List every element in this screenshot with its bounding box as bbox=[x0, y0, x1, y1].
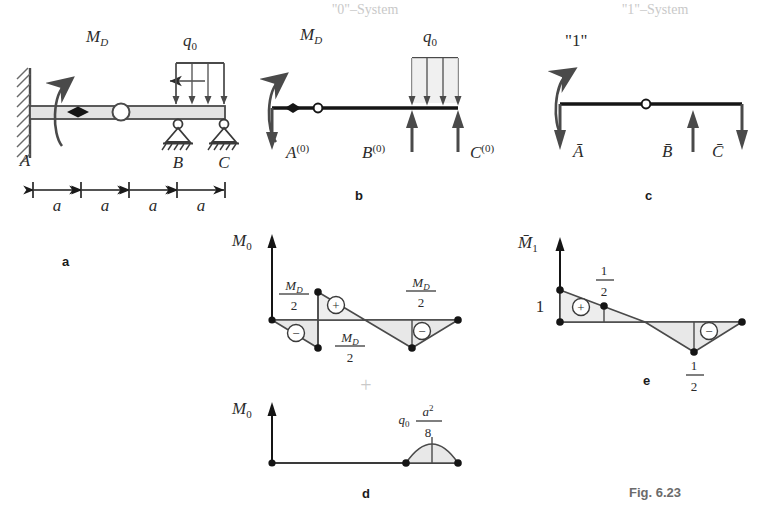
svg-text:a2: a2 bbox=[423, 403, 434, 419]
distributed-load-a bbox=[170, 63, 228, 105]
svg-text:+: + bbox=[577, 300, 584, 315]
label-md-over-2-middle: MD 2 bbox=[335, 330, 365, 365]
panel-c-one-system: "1" Ā B̄ C̄ c bbox=[554, 31, 748, 203]
label-support-b: B bbox=[173, 153, 184, 172]
panel-label-d: d bbox=[362, 486, 370, 501]
label-reaction-b0: B(0) bbox=[362, 142, 386, 162]
dimension-chain-a: a a a a bbox=[33, 182, 225, 215]
support-c bbox=[208, 120, 239, 151]
label-one-half-bottom: 1 2 bbox=[686, 358, 704, 394]
svg-text:−: − bbox=[705, 324, 712, 339]
label-m1-axis: M̄1 bbox=[517, 233, 538, 254]
svg-text:2: 2 bbox=[291, 298, 298, 313]
svg-text:8: 8 bbox=[425, 425, 432, 440]
sign-plus-e: + bbox=[573, 299, 590, 316]
figure-6-23: "0"–System "1"–System MD bbox=[0, 0, 765, 525]
superposition-plus: + bbox=[360, 374, 371, 396]
label-md-over-2-right: MD 2 bbox=[406, 275, 436, 310]
svg-text:2: 2 bbox=[601, 284, 608, 299]
label-q0-b: q0 bbox=[423, 27, 438, 48]
svg-text:MD: MD bbox=[340, 330, 359, 347]
svg-text:+: + bbox=[332, 298, 339, 313]
panel-label-e: e bbox=[643, 373, 650, 388]
sign-plus-1: + bbox=[328, 297, 345, 314]
sign-minus-1: − bbox=[288, 325, 305, 342]
svg-text:−: − bbox=[418, 324, 425, 339]
label-md-over-2-left: MD 2 bbox=[279, 278, 309, 313]
svg-text:−: − bbox=[292, 326, 299, 341]
label-one-half-top: 1 2 bbox=[596, 263, 614, 299]
sign-minus-2: − bbox=[414, 323, 431, 340]
label-unit-moment-c: "1" bbox=[565, 31, 587, 50]
svg-text:q0: q0 bbox=[399, 412, 411, 429]
svg-text:2: 2 bbox=[347, 350, 354, 365]
sign-minus-e: − bbox=[701, 323, 718, 340]
label-unit-value-e: 1 bbox=[536, 297, 545, 316]
header-one-system: "1"–System bbox=[622, 2, 689, 17]
label-m0-axis-2: M0 bbox=[231, 399, 252, 420]
hinge-a bbox=[113, 104, 130, 121]
panel-label-b: b bbox=[355, 188, 363, 203]
svg-text:MD: MD bbox=[411, 275, 430, 292]
dimension-label-3: a bbox=[149, 196, 158, 215]
hinge-c bbox=[642, 100, 651, 109]
svg-text:MD: MD bbox=[284, 278, 303, 295]
label-reaction-c0: C(0) bbox=[470, 142, 495, 162]
panel-e-m1bar-diagram: M̄1 + − 1 1 2 1 2 bbox=[517, 233, 746, 394]
fixed-support-wall bbox=[17, 68, 30, 164]
dimension-label-4: a bbox=[197, 196, 206, 215]
hinge-b bbox=[314, 104, 323, 113]
label-md-a: MD bbox=[85, 27, 108, 48]
label-q0-a: q0 bbox=[183, 31, 198, 52]
label-q0-a-squared-over-8: q0 a2 8 bbox=[399, 403, 443, 440]
dimension-label-1: a bbox=[53, 196, 62, 215]
svg-text:1: 1 bbox=[691, 358, 698, 373]
panel-b-zero-system: MD q0 A(0) B(0) bbox=[266, 25, 495, 203]
label-reaction-abar: Ā bbox=[572, 142, 584, 161]
label-md-b: MD bbox=[299, 25, 322, 46]
svg-text:2: 2 bbox=[691, 379, 698, 394]
label-reaction-a0: A(0) bbox=[285, 142, 310, 162]
svg-text:2: 2 bbox=[418, 295, 425, 310]
dimension-label-2: a bbox=[101, 196, 110, 215]
moment-marker-b bbox=[285, 103, 301, 113]
distributed-load-b bbox=[409, 58, 462, 106]
svg-text:1: 1 bbox=[601, 263, 608, 278]
panel-label-a: a bbox=[62, 254, 70, 269]
header-zero-system: "0"–System bbox=[332, 2, 399, 17]
label-m0-axis-1: M0 bbox=[231, 231, 252, 252]
label-reaction-cbar: C̄ bbox=[712, 142, 724, 161]
figure-caption: Fig. 6.23 bbox=[629, 485, 681, 500]
panel-d-m0-md-diagram: M0 + − − MD bbox=[231, 231, 462, 501]
label-support-c: C bbox=[218, 153, 230, 172]
label-reaction-bbar: B̄ bbox=[662, 142, 673, 161]
panel-a-original-system: MD q0 bbox=[17, 27, 239, 269]
support-b bbox=[162, 120, 193, 151]
label-support-a: A bbox=[19, 151, 31, 170]
panel-label-c: c bbox=[645, 188, 652, 203]
